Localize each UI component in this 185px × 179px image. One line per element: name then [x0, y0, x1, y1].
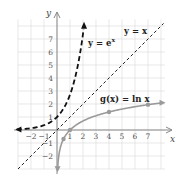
- y-tick-label: 6: [48, 48, 53, 57]
- y-tick-label: 7: [48, 35, 53, 44]
- y-axis-label: y: [45, 8, 52, 18]
- ln-point-marker: [68, 128, 72, 132]
- x-tick-label: 4: [107, 132, 112, 141]
- x-tick-label: 1: [68, 132, 73, 141]
- x-tick-label: 2: [81, 132, 86, 141]
- y-tick-label: 4: [48, 74, 53, 83]
- x-tick-label: −2: [25, 132, 36, 141]
- exp-top-arrow-icon: [81, 22, 87, 29]
- identity-line-label: y = x: [123, 26, 148, 36]
- y-tick-label: 5: [48, 61, 53, 70]
- ln-point-marker: [107, 110, 111, 114]
- function-graph: xy −2−112345677654321−1−2 y = exy = xg(x…: [0, 0, 185, 179]
- exp-left-arrow-icon: [15, 126, 21, 132]
- ln-curve-label: g(x) = ln x: [100, 94, 150, 104]
- x-tick-label: 5: [120, 132, 125, 141]
- x-tick-label: 3: [94, 132, 99, 141]
- x-tick-label: 7: [146, 132, 151, 141]
- y-tick-label: 3: [48, 87, 53, 96]
- y-tick-label: 2: [48, 100, 53, 109]
- ln-point-marker: [61, 137, 65, 141]
- exp-curve-label: y = ex: [87, 36, 115, 48]
- x-axis-label: x: [170, 134, 175, 144]
- ln-right-arrow-icon: [160, 100, 166, 106]
- y-tick-label: 1: [48, 113, 53, 122]
- y-tick-label: −2: [42, 152, 53, 161]
- x-tick-label: 6: [133, 132, 138, 141]
- exp-label-exponent: x: [111, 36, 115, 43]
